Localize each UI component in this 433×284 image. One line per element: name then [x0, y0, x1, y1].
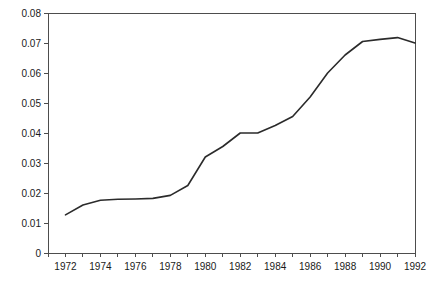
- y-tick-label-6: 0.06: [22, 68, 42, 79]
- y-tick-label-1: 0.01: [22, 218, 42, 229]
- x-tick-label-7: 1986: [299, 261, 322, 272]
- x-tick-label-6: 1984: [264, 261, 287, 272]
- x-tick-label-9: 1990: [369, 261, 392, 272]
- x-tick-label-2: 1976: [124, 261, 147, 272]
- y-tick-label-0: 0: [35, 248, 41, 259]
- y-tick-label-4: 0.04: [22, 128, 42, 139]
- line-chart: 00.010.020.030.040.050.060.070.081972197…: [0, 0, 433, 284]
- x-tick-label-1: 1974: [89, 261, 112, 272]
- x-tick-label-8: 1988: [334, 261, 357, 272]
- x-tick-label-4: 1980: [194, 261, 217, 272]
- chart-figure: 00.010.020.030.040.050.060.070.081972197…: [0, 0, 433, 284]
- y-tick-label-3: 0.03: [22, 158, 42, 169]
- x-tick-label-3: 1978: [159, 261, 182, 272]
- x-tick-label-10: 1992: [404, 261, 427, 272]
- y-tick-label-8: 0.08: [22, 8, 42, 19]
- data-series-line: [65, 38, 415, 215]
- axis-spines: [48, 13, 415, 253]
- x-tick-label-5: 1982: [229, 261, 252, 272]
- y-tick-label-2: 0.02: [22, 188, 42, 199]
- y-tick-label-7: 0.07: [22, 38, 42, 49]
- x-tick-label-0: 1972: [54, 261, 77, 272]
- y-tick-label-5: 0.05: [22, 98, 42, 109]
